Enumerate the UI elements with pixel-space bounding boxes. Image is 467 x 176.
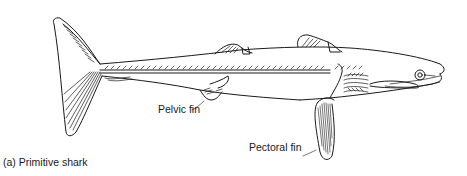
jaw — [370, 76, 440, 88]
shark-illustration — [0, 0, 467, 176]
shark-body — [100, 47, 444, 100]
gill-arches — [344, 73, 368, 92]
pelvic-fin-label: Pelvic fin — [158, 103, 200, 115]
pectoral-fin — [303, 64, 342, 159]
second-dorsal-fin — [297, 35, 342, 52]
caudal-fin — [53, 18, 102, 136]
figure-caption: (a) Primitive shark — [3, 156, 88, 168]
eye — [415, 70, 435, 80]
pectoral-fin-label: Pectoral fin — [249, 141, 302, 153]
